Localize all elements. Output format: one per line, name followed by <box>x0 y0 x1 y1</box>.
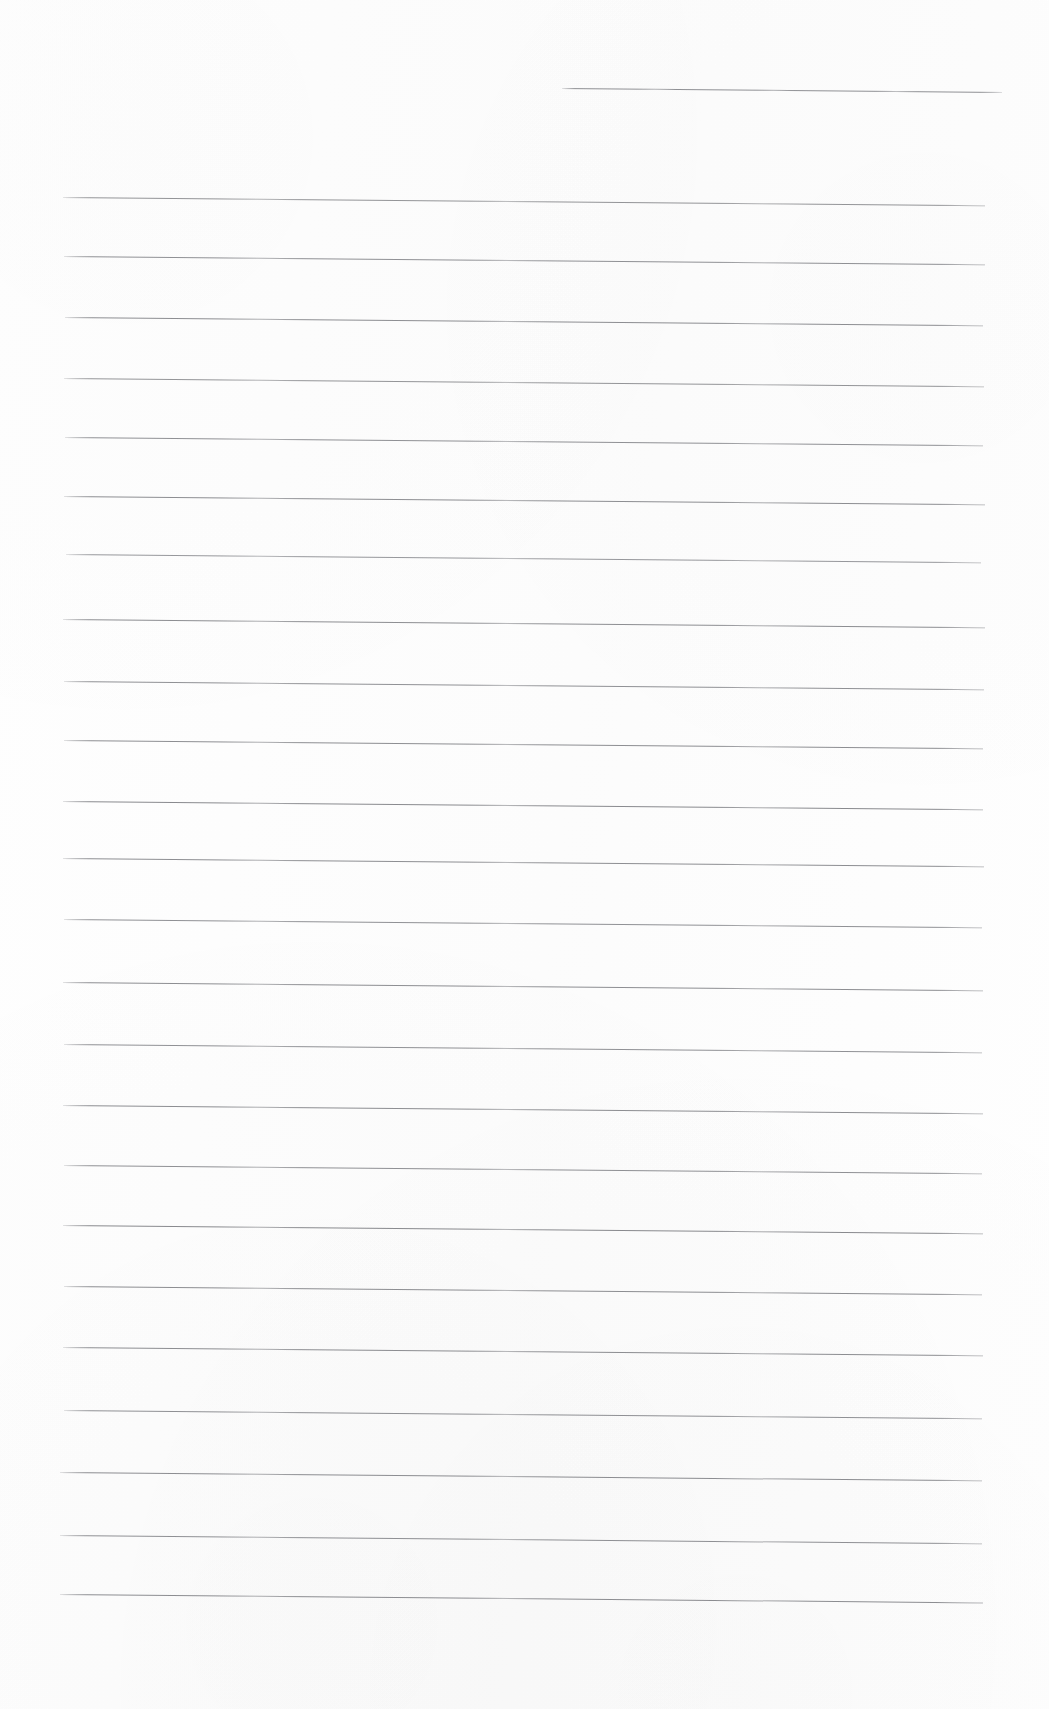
ruled-line <box>64 1286 982 1295</box>
ruled-line <box>63 1105 983 1114</box>
ruled-line <box>63 858 984 867</box>
lined-paper-page <box>0 0 1049 1709</box>
ruled-line <box>63 801 983 810</box>
ruled-line <box>63 619 985 628</box>
ruled-line <box>63 1225 983 1234</box>
ruled-line <box>64 378 984 387</box>
ruled-line <box>65 437 983 446</box>
ruled-line <box>65 317 983 326</box>
ruled-line <box>63 982 983 991</box>
ruled-lines-layer <box>0 0 1049 1709</box>
ruled-line <box>60 1535 982 1544</box>
ruled-line <box>66 554 981 563</box>
ruled-line <box>64 740 983 749</box>
ruled-line <box>64 1410 982 1419</box>
ruled-line <box>64 1165 982 1174</box>
ruled-line <box>60 1472 982 1481</box>
ruled-line <box>64 919 982 928</box>
ruled-line <box>64 256 985 265</box>
ruled-line <box>562 88 1002 93</box>
ruled-line <box>63 1347 983 1356</box>
ruled-line <box>63 197 985 206</box>
ruled-line <box>64 496 985 505</box>
ruled-line <box>60 1594 983 1603</box>
ruled-line <box>64 1044 982 1053</box>
ruled-line <box>64 681 984 690</box>
